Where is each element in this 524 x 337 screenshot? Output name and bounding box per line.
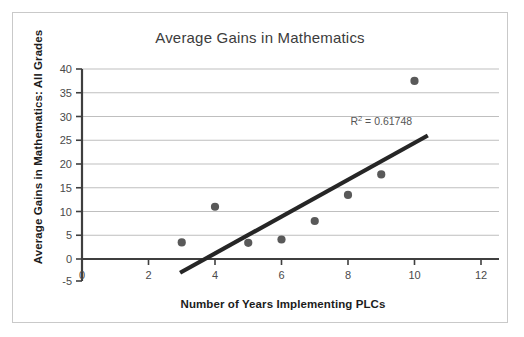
y-tick-label: 25 bbox=[60, 134, 72, 146]
y-tick-label: -5 bbox=[62, 275, 72, 287]
data-point bbox=[344, 191, 352, 199]
data-point bbox=[211, 203, 219, 211]
scatter-plot: -50510152025303540024681012R2 = 0.61748 bbox=[13, 13, 509, 324]
y-tick-label: 15 bbox=[60, 182, 72, 194]
chart-frame: Average Gains in Mathematics Average Gai… bbox=[12, 12, 508, 323]
r-squared-annotation: R2 = 0.61748 bbox=[350, 114, 412, 127]
gridlines bbox=[82, 69, 499, 259]
data-point bbox=[410, 77, 418, 85]
y-tick-label: 20 bbox=[60, 158, 72, 170]
x-tick-label: 8 bbox=[345, 269, 351, 281]
data-point bbox=[178, 238, 186, 246]
y-tick-label: 0 bbox=[66, 253, 72, 265]
y-tick-label: 30 bbox=[60, 111, 72, 123]
data-point bbox=[244, 239, 252, 247]
x-axis-ticks: 024681012 bbox=[79, 259, 487, 281]
x-tick-label: 12 bbox=[475, 269, 487, 281]
data-point bbox=[277, 235, 285, 243]
x-tick-label: 2 bbox=[145, 269, 151, 281]
x-tick-label: 0 bbox=[79, 269, 85, 281]
y-tick-label: 10 bbox=[60, 206, 72, 218]
data-point bbox=[311, 217, 319, 225]
x-tick-label: 10 bbox=[408, 269, 420, 281]
y-tick-label: 35 bbox=[60, 87, 72, 99]
data-point bbox=[377, 170, 385, 178]
x-tick-label: 6 bbox=[278, 269, 284, 281]
y-tick-label: 5 bbox=[66, 229, 72, 241]
y-tick-label: 40 bbox=[60, 63, 72, 75]
x-tick-label: 4 bbox=[212, 269, 218, 281]
y-axis-ticks: -50510152025303540 bbox=[60, 63, 82, 287]
